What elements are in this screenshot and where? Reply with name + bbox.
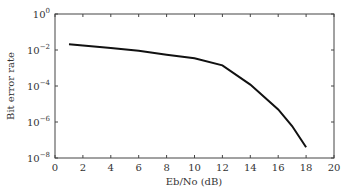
- y-tick-label: 10−6: [27, 115, 51, 128]
- x-tick-label: 14: [244, 162, 257, 173]
- y-tick-label: 10−8: [27, 151, 50, 164]
- y-tick-label: 10−4: [27, 79, 51, 92]
- x-tick-label: 18: [300, 162, 313, 173]
- x-tick-label: 12: [216, 162, 229, 173]
- x-tick-label: 8: [163, 162, 169, 173]
- x-tick-label: 2: [80, 162, 86, 173]
- x-axis-label: Eb/No (dB): [166, 176, 223, 187]
- y-tick-label: 100: [33, 7, 50, 20]
- plot-area: [55, 14, 334, 158]
- ber-chart: 02468101214161820 10010−210−410−610−8 Eb…: [0, 0, 357, 194]
- x-tick-label: 0: [52, 162, 58, 173]
- x-tick-label: 20: [328, 162, 341, 173]
- y-axis-label: Bit error rate: [5, 52, 16, 120]
- x-tick-label: 4: [108, 162, 114, 173]
- x-tick-label: 16: [272, 162, 285, 173]
- x-tick-label: 10: [188, 162, 201, 173]
- y-tick-label: 10−2: [27, 43, 50, 56]
- x-tick-label: 6: [136, 162, 142, 173]
